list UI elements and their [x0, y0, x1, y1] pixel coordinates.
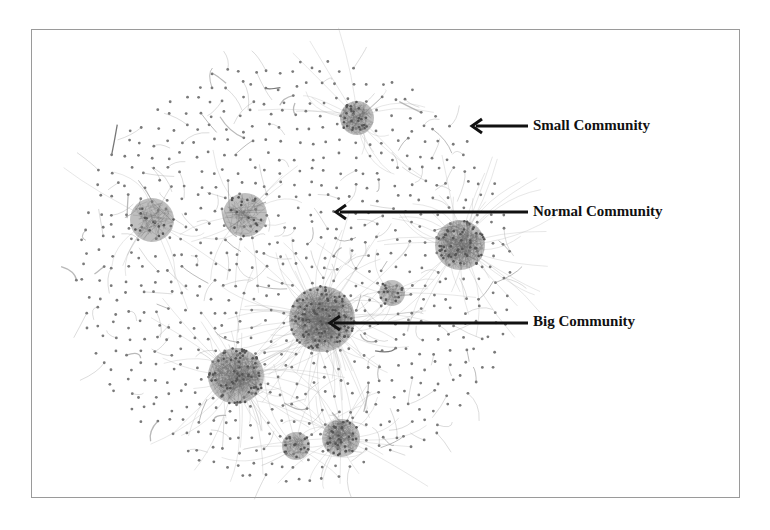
- network-graph: [0, 0, 770, 530]
- label-normal-community: Normal Community: [533, 204, 663, 219]
- graph-communities: [130, 101, 486, 460]
- label-big-community: Big Community: [533, 314, 635, 329]
- label-small-community: Small Community: [533, 118, 650, 133]
- graph-edges: [61, 28, 562, 500]
- graph-nodes: [75, 60, 511, 483]
